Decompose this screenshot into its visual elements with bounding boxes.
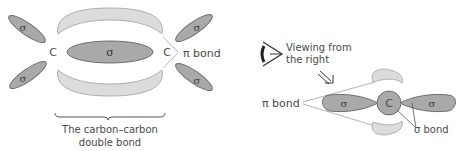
- sigma-lobe-left: [322, 94, 378, 111]
- pi-bond-label-left: π bond: [183, 47, 221, 60]
- caption-line-1: The carbon–carbon: [61, 124, 158, 135]
- caption-line-2: double bond: [79, 137, 141, 148]
- sigma-right-label: σ: [429, 98, 436, 109]
- carbon-label: C: [385, 97, 393, 110]
- viewing-label-line-1: Viewing from: [286, 42, 352, 53]
- eye-icon: [262, 42, 282, 66]
- pi-bond-label-right: π bond: [262, 97, 300, 110]
- sigma-lobe-label: σ: [20, 22, 27, 33]
- sigma-lobe-bottom-right: σ: [173, 59, 216, 94]
- sigma-lobe-bottom-left: σ: [7, 57, 50, 92]
- pi-lobe-upper: [58, 8, 163, 34]
- sigma-center-label: σ: [106, 46, 114, 59]
- sigma-lobe-label: σ: [194, 22, 201, 33]
- sigma-left-label: σ: [341, 98, 348, 109]
- brace-icon: [55, 113, 165, 120]
- left-double-bond-diagram: σ C C σ σ σ σ π bond The carbon–carbon d…: [6, 8, 221, 148]
- sigma-lobe-label: σ: [194, 75, 201, 86]
- carbon-right-label: C: [163, 46, 171, 59]
- sigma-lobe-top-left: σ: [6, 11, 49, 46]
- sigma-bond-label: σ bond: [414, 124, 449, 135]
- viewing-label-line-2: the right: [286, 54, 329, 65]
- sigma-lobe-top-right: σ: [173, 10, 216, 45]
- right-end-view-diagram: Viewing from the right π bond C σ σ σ bo…: [262, 42, 456, 135]
- sigma-lobe-label: σ: [20, 73, 27, 84]
- pi-lobe-upper: [372, 69, 402, 83]
- double-arrow-icon: [318, 71, 333, 84]
- diagram-canvas: σ C C σ σ σ σ π bond The carbon–carbon d…: [0, 0, 467, 151]
- pi-lobe-lower: [372, 121, 402, 135]
- carbon-left-label: C: [49, 46, 57, 59]
- pi-lobe-lower: [58, 70, 163, 96]
